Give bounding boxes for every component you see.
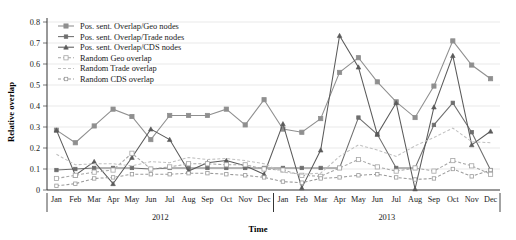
x-tick-label: Apr xyxy=(333,195,346,204)
data-point-marker xyxy=(356,65,361,69)
x-tick-label: Sep xyxy=(201,195,213,204)
data-point-marker xyxy=(92,170,96,174)
data-point-marker xyxy=(432,177,435,180)
legend-marker xyxy=(64,56,68,60)
data-point-marker xyxy=(337,70,341,74)
data-point-marker xyxy=(187,172,190,175)
legend-label: Pos. sent. Overlap/Geo nodes xyxy=(80,22,179,31)
data-point-marker xyxy=(451,167,454,170)
data-point-marker xyxy=(111,107,115,111)
x-tick-label: Jun xyxy=(145,195,156,204)
data-point-marker xyxy=(432,105,437,109)
y-tick-label: 0.3 xyxy=(30,123,40,132)
data-point-marker xyxy=(413,115,417,119)
x-tick-label: Feb xyxy=(69,195,81,204)
y-tick-label: 0.6 xyxy=(30,60,40,69)
data-point-marker xyxy=(186,162,190,166)
x-tick-label: Nov xyxy=(465,195,480,204)
series-5 xyxy=(56,128,490,174)
data-point-marker xyxy=(300,130,304,134)
data-point-marker xyxy=(55,184,58,187)
data-point-marker xyxy=(357,116,360,119)
data-point-marker xyxy=(488,129,493,133)
x-tick-label: Mar xyxy=(87,195,101,204)
x-tick-label: May xyxy=(351,195,367,204)
data-point-marker xyxy=(130,166,133,169)
data-point-marker xyxy=(337,166,341,170)
data-point-marker xyxy=(281,180,284,183)
data-point-marker xyxy=(92,166,95,169)
year-group-label: 2013 xyxy=(378,213,395,222)
y-tick-label: 0.7 xyxy=(30,39,40,48)
data-point-marker xyxy=(111,168,115,172)
data-point-marker xyxy=(432,84,436,88)
year-group-label: 2012 xyxy=(152,213,169,222)
data-point-marker xyxy=(92,124,96,128)
data-point-marker xyxy=(130,114,134,118)
data-point-marker xyxy=(262,176,265,179)
data-point-marker xyxy=(168,165,172,169)
x-tick-label: Nov xyxy=(238,195,253,204)
data-point-marker xyxy=(262,98,266,102)
data-point-marker xyxy=(356,157,360,161)
x-tick-label: Aug xyxy=(408,195,422,204)
data-point-marker xyxy=(470,175,473,178)
data-point-marker xyxy=(130,173,133,176)
legend-label: Random CDS overlap xyxy=(80,75,154,84)
data-point-marker xyxy=(338,176,341,179)
chart-container: 00.10.20.30.40.50.60.70.8 JanFebMarAprMa… xyxy=(0,0,516,240)
data-point-marker xyxy=(206,172,209,175)
data-point-marker xyxy=(451,53,456,57)
data-point-marker xyxy=(489,168,492,171)
y-tick-label: 0.2 xyxy=(30,144,40,153)
y-tick-label: 0.4 xyxy=(30,102,40,111)
y-tick-label: 0.1 xyxy=(30,165,40,174)
legend-label: Pos. sent. Overlap/CDS nodes xyxy=(80,43,181,52)
legend-marker xyxy=(64,77,67,80)
data-point-marker xyxy=(149,138,153,142)
data-point-marker xyxy=(168,113,172,117)
data-point-marker xyxy=(167,137,172,141)
x-tick-label: Dec xyxy=(257,195,271,204)
data-point-marker xyxy=(262,167,266,171)
data-point-marker xyxy=(73,141,77,145)
data-point-marker xyxy=(206,166,209,169)
data-point-marker xyxy=(356,56,360,60)
data-point-marker xyxy=(488,77,492,81)
data-point-marker xyxy=(470,63,474,67)
data-point-marker xyxy=(375,165,379,169)
data-point-marker xyxy=(243,123,247,127)
data-point-marker xyxy=(243,174,246,177)
x-axis-ticks: JanFebMarAprMayJunJulAugSepOctNovDecJanF… xyxy=(51,195,498,204)
data-point-marker xyxy=(319,177,322,180)
legend-marker xyxy=(64,35,67,38)
y-tick-label: 0 xyxy=(36,186,40,195)
data-point-marker xyxy=(300,166,303,169)
x-tick-label: Jan xyxy=(277,195,288,204)
data-point-marker xyxy=(73,173,77,177)
series-line xyxy=(56,153,490,178)
data-point-marker xyxy=(319,166,322,169)
data-point-marker xyxy=(375,80,379,84)
data-point-marker xyxy=(470,131,473,134)
data-point-marker xyxy=(488,172,492,176)
data-point-marker xyxy=(357,174,360,177)
data-point-marker xyxy=(451,159,455,163)
y-tick-label: 0.8 xyxy=(30,18,40,27)
data-point-marker xyxy=(205,162,209,166)
data-point-marker xyxy=(394,169,398,173)
data-point-marker xyxy=(92,177,95,180)
x-tick-label: Dec xyxy=(484,195,498,204)
x-tick-label: May xyxy=(124,195,140,204)
data-point-marker xyxy=(300,181,303,184)
series-4 xyxy=(54,151,492,180)
data-point-marker xyxy=(281,122,286,126)
x-tick-label: Oct xyxy=(447,195,460,204)
x-tick-label: Jan xyxy=(51,195,62,204)
data-point-marker xyxy=(74,167,77,170)
legend-marker xyxy=(64,24,68,28)
relative-overlap-line-chart: 00.10.20.30.40.50.60.70.8 JanFebMarAprMa… xyxy=(0,0,516,240)
data-point-marker xyxy=(55,168,58,171)
x-tick-label: Jul xyxy=(391,195,401,204)
x-tick-label: Sep xyxy=(428,195,440,204)
